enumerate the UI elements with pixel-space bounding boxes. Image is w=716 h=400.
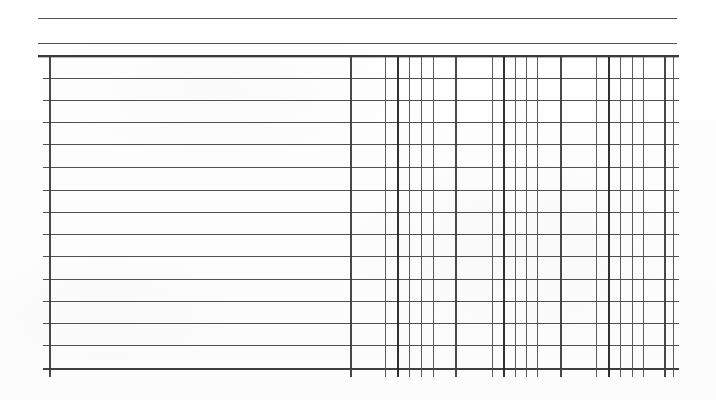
table-cell (517, 324, 525, 344)
table-cell (645, 145, 663, 166)
table-cell (598, 79, 607, 99)
table-cell (399, 56, 408, 77)
table-cell (399, 213, 408, 233)
table-cell (352, 235, 384, 255)
table-cell (539, 101, 559, 121)
table-cell (411, 145, 420, 166)
table-cell (666, 346, 672, 367)
table-cell (435, 302, 454, 322)
header-rule-top-rule (38, 18, 677, 19)
table-cell (399, 79, 408, 99)
table-cell (423, 79, 432, 99)
table-cell (411, 56, 420, 77)
table-cell (51, 324, 349, 344)
table-cell (352, 302, 384, 322)
table-cell (457, 213, 491, 233)
table-column-rule (515, 57, 516, 377)
table-cell (622, 346, 631, 367)
table-cell (598, 302, 607, 322)
table-cell (494, 324, 502, 344)
table-cell (435, 257, 454, 278)
table-cell (423, 101, 432, 121)
table-cell (399, 302, 408, 322)
table-cell (399, 123, 408, 143)
table-cell (423, 346, 432, 367)
table-cell (562, 257, 595, 278)
table-cell (423, 280, 432, 300)
table-cell (645, 235, 663, 255)
table-cell (505, 213, 514, 233)
table-cell (457, 280, 491, 300)
table-cell (494, 123, 502, 143)
table-cell (411, 280, 420, 300)
table-cell (51, 302, 349, 322)
table-cell (352, 168, 384, 189)
table-cell (610, 79, 619, 99)
table-cell (352, 213, 384, 233)
table-cell (494, 79, 502, 99)
table-cell (505, 56, 514, 77)
table-cell (528, 280, 536, 300)
table-cell (494, 191, 502, 211)
table-cell (634, 101, 642, 121)
table-cell (352, 79, 384, 99)
table-cell (528, 324, 536, 344)
table-cell (423, 213, 432, 233)
table-cell (505, 235, 514, 255)
table-cell (494, 145, 502, 166)
table-cell (387, 213, 396, 233)
table-cell (666, 324, 672, 344)
table-cell (562, 324, 595, 344)
table-cell (457, 191, 491, 211)
table-column-rule (596, 57, 597, 377)
table-column-rule (620, 57, 621, 377)
table-cell (539, 346, 559, 367)
table-cell (387, 257, 396, 278)
table-cell (457, 145, 491, 166)
table-cell (528, 235, 536, 255)
table-cell (539, 56, 559, 77)
table-cell (51, 101, 349, 121)
table-cell (622, 101, 631, 121)
table-cell (562, 123, 595, 143)
table-cell (387, 280, 396, 300)
table-row-rule (43, 368, 679, 370)
table-cell (387, 191, 396, 211)
table-cell (387, 123, 396, 143)
table-cell (610, 56, 619, 77)
table-cell (634, 145, 642, 166)
table-cell (435, 145, 454, 166)
table-cell (457, 79, 491, 99)
table-cell (423, 324, 432, 344)
table-cell (494, 56, 502, 77)
table-cell (435, 346, 454, 367)
table-cell (435, 324, 454, 344)
table-cell (645, 257, 663, 278)
table-cell (539, 191, 559, 211)
table-cell (457, 101, 491, 121)
table-cell (539, 235, 559, 255)
table-cell (622, 168, 631, 189)
table-cell (505, 346, 514, 367)
table-column-rule (643, 57, 644, 377)
table-cell (622, 56, 631, 77)
table-cell (528, 257, 536, 278)
table-cell (457, 302, 491, 322)
table-cell (562, 302, 595, 322)
table-cell (598, 280, 607, 300)
table-cell (610, 168, 619, 189)
table-cell (399, 346, 408, 367)
table-cell (528, 101, 536, 121)
table-cell (562, 191, 595, 211)
table-cell (387, 168, 396, 189)
table-cell (517, 123, 525, 143)
table-cell (598, 235, 607, 255)
table-cell (622, 123, 631, 143)
table-cell (598, 257, 607, 278)
table-cell (517, 280, 525, 300)
table-cell (598, 56, 607, 77)
table-cell (622, 280, 631, 300)
table-cell (622, 191, 631, 211)
table-cell (634, 346, 642, 367)
table-cell (423, 56, 432, 77)
